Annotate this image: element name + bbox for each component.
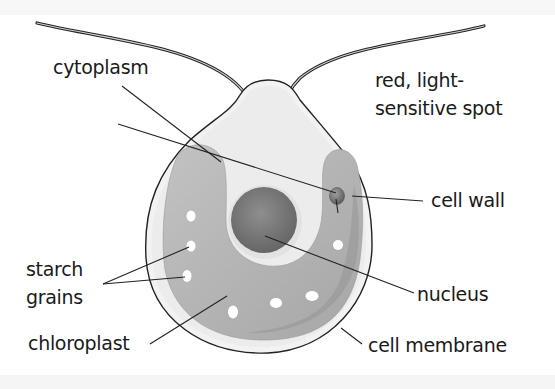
nucleus — [231, 187, 297, 253]
label-starch-line1: starch — [26, 257, 83, 281]
label-starch-line2: grains — [26, 285, 83, 309]
label-eyespot-line2: sensitive spot — [375, 96, 502, 120]
label-cell-wall: cell wall — [431, 188, 505, 212]
label-cytoplasm: cytoplasm — [53, 55, 148, 79]
label-chloroplast: chloroplast — [28, 331, 129, 355]
eyespot — [330, 188, 345, 205]
label-nucleus: nucleus — [417, 282, 488, 306]
cell-diagram: cytoplasm red, light- sensitive spot cel… — [0, 0, 555, 389]
label-eyespot-line1: red, light- — [375, 68, 464, 92]
label-cell-membrane: cell membrane — [368, 333, 507, 357]
